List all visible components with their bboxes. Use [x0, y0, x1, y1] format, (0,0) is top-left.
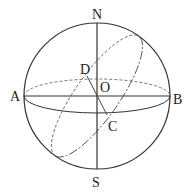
label-n: N — [92, 7, 102, 22]
label-c: C — [108, 119, 117, 134]
label-d: D — [80, 62, 90, 77]
label-a: A — [10, 89, 21, 104]
tilted-circle-front-arc — [55, 36, 157, 168]
label-s: S — [92, 175, 100, 190]
tilted-circle-back-arc — [37, 24, 139, 156]
label-b: B — [173, 92, 182, 107]
sphere-diagram: N S A B O D C — [0, 0, 188, 195]
label-o: O — [100, 80, 110, 95]
